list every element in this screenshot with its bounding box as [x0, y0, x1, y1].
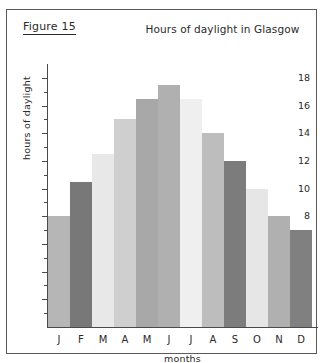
x-tick-label: J	[158, 334, 180, 345]
figure-label: Figure 15	[23, 20, 76, 35]
y-tick-minor	[44, 258, 47, 259]
x-tick-label: J	[48, 334, 70, 345]
bar	[70, 182, 92, 327]
bar	[224, 161, 246, 327]
y-tick-minor	[44, 285, 47, 286]
figure-frame: Figure 15 Hours of daylight in Glasgow h…	[6, 9, 317, 354]
y-tick-major	[42, 106, 47, 107]
x-tick-label: N	[268, 334, 290, 345]
x-tick-label: O	[246, 334, 268, 345]
bar	[136, 99, 158, 327]
bar	[180, 99, 202, 327]
y-tick-minor	[44, 230, 47, 231]
x-tick-label: D	[290, 334, 312, 345]
y-tick-minor	[44, 119, 47, 120]
x-tick-label: S	[224, 334, 246, 345]
x-tick-label: M	[92, 334, 114, 345]
y-tick-minor	[44, 175, 47, 176]
plot-area: hours of daylight 24681012141618 JFMAMJJ…	[47, 64, 318, 328]
x-tick-label: A	[202, 334, 224, 345]
x-tick-label: M	[136, 334, 158, 345]
y-tick-major	[42, 78, 47, 79]
y-tick-minor	[44, 92, 47, 93]
bar	[290, 230, 312, 327]
bar	[246, 189, 268, 327]
y-tick-major	[42, 133, 47, 134]
bar	[202, 133, 224, 327]
y-tick-major	[42, 216, 47, 217]
x-tick-label: F	[70, 334, 92, 345]
x-axis-title: months	[47, 353, 318, 363]
bar	[158, 85, 180, 327]
bar-series	[48, 64, 318, 327]
y-tick-minor	[44, 202, 47, 203]
x-tick-label: J	[180, 334, 202, 345]
bar	[114, 119, 136, 327]
y-axis-title: hours of daylight	[21, 76, 32, 160]
bar	[268, 216, 290, 327]
y-tick-minor	[44, 313, 47, 314]
y-tick-major	[42, 189, 47, 190]
x-tick-label: A	[114, 334, 136, 345]
y-tick-major	[42, 161, 47, 162]
y-tick-major	[42, 272, 47, 273]
bar	[92, 154, 114, 327]
bar	[48, 216, 70, 327]
chart-title: Hours of daylight in Glasgow	[135, 23, 310, 36]
y-tick-minor	[44, 147, 47, 148]
y-tick-major	[42, 244, 47, 245]
y-tick-major	[42, 299, 47, 300]
x-axis-line	[47, 327, 318, 328]
